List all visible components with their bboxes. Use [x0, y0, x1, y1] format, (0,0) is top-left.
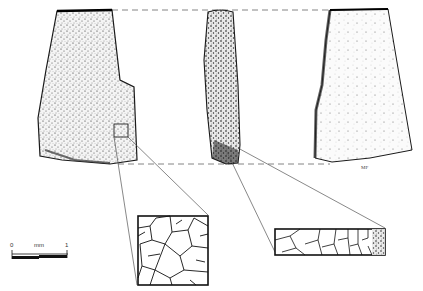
leader-front-right — [128, 137, 208, 215]
figure-canvas — [0, 0, 423, 291]
front-view — [38, 10, 137, 164]
texture-inset-face — [138, 216, 208, 285]
side-view — [204, 10, 240, 164]
scale-end-label: 1 — [65, 242, 68, 248]
leader-side-right — [238, 148, 385, 228]
back-view — [315, 9, 412, 162]
leader-side-left — [226, 150, 275, 252]
texture-inset-section — [275, 229, 385, 255]
scale-unit-label: mm — [34, 242, 44, 248]
artist-initials: MF — [361, 165, 368, 170]
scale-bar — [12, 250, 68, 259]
scale-start-label: 0 — [10, 242, 13, 248]
